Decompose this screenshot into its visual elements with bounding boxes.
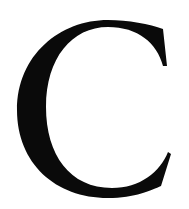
letter-c-shape: [17, 20, 171, 198]
letter-canvas: C: [0, 0, 189, 209]
letter-c-glyph: [0, 0, 189, 209]
